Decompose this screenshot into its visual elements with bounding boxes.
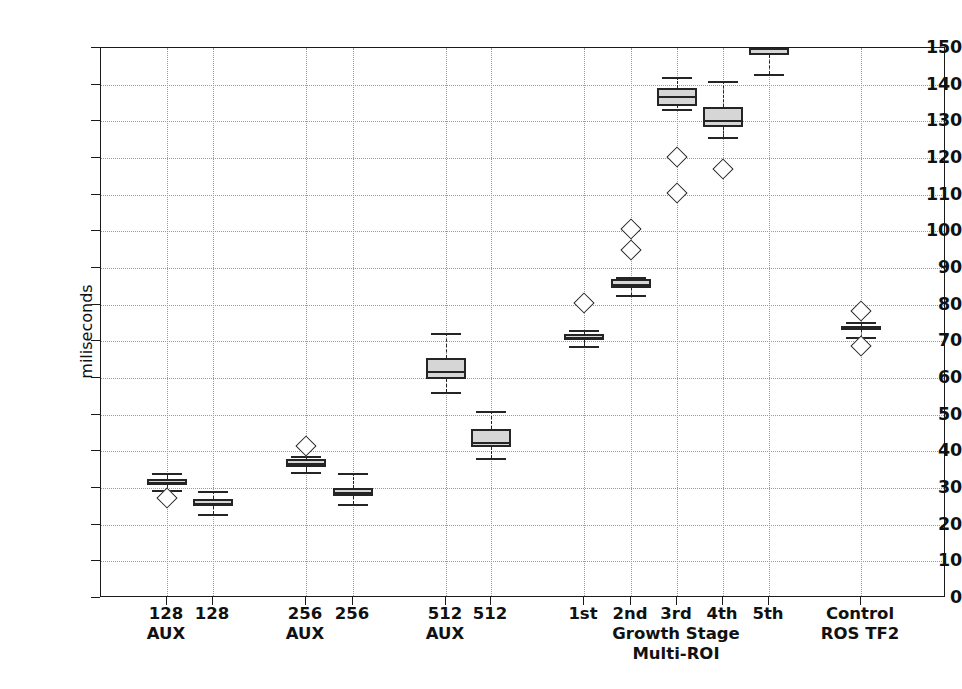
whisker-lower — [769, 55, 770, 73]
gridline-y-120 — [101, 158, 944, 159]
x-tick-label-line2: AUX — [101, 624, 231, 644]
gridline-y-10 — [101, 561, 944, 562]
y-tick-mark-100 — [91, 230, 100, 231]
median-line — [426, 371, 466, 373]
whisker-upper — [491, 411, 492, 429]
y-tick-mark-40 — [91, 450, 100, 451]
whisker-upper — [446, 333, 447, 359]
gridline-y-20 — [101, 525, 944, 526]
y-tick-label-10: 10 — [878, 550, 962, 570]
whisker-cap-lower — [708, 137, 738, 139]
median-line — [193, 503, 233, 505]
gridline-y-60 — [101, 378, 944, 379]
x-tick-label-line1: 128 — [195, 604, 229, 623]
y-tick-mark-30 — [91, 487, 100, 488]
whisker-cap-lower — [431, 392, 461, 394]
whisker-lower — [631, 288, 632, 295]
y-tick-mark-110 — [91, 194, 100, 195]
whisker-cap-lower — [569, 346, 599, 348]
gridline-y-30 — [101, 488, 944, 489]
whisker-cap-upper — [846, 322, 876, 324]
y-tick-label-70: 70 — [878, 330, 962, 350]
whisker-lower — [446, 379, 447, 393]
median-line — [611, 284, 651, 286]
gridline-y-100 — [101, 231, 944, 232]
y-tick-mark-90 — [91, 267, 100, 268]
whisker-lower — [723, 127, 724, 138]
outlier-marker — [573, 293, 594, 314]
whisker-cap-upper — [476, 411, 506, 413]
y-tick-mark-80 — [91, 304, 100, 305]
box-9 — [703, 107, 743, 126]
gridline-y-70 — [101, 341, 944, 342]
box-5 — [471, 429, 511, 447]
y-tick-mark-130 — [91, 120, 100, 121]
y-tick-mark-140 — [91, 84, 100, 85]
gridline-x-8 — [677, 48, 678, 596]
median-line — [657, 96, 697, 98]
y-tick-mark-120 — [91, 157, 100, 158]
gridline-y-90 — [101, 268, 944, 269]
x-tick-label-line1: 5th — [752, 604, 783, 623]
y-tick-label-90: 90 — [878, 257, 962, 277]
gridline-y-80 — [101, 305, 944, 306]
gridline-x-6 — [584, 48, 585, 596]
whisker-cap-upper — [198, 491, 228, 493]
chart-page: miliseconds 0102030405060708090100110120… — [0, 0, 962, 689]
y-tick-label-30: 30 — [878, 477, 962, 497]
annotation-0: Growth Stage — [526, 624, 826, 644]
y-tick-label-100: 100 — [878, 220, 962, 240]
y-tick-label-120: 120 — [878, 147, 962, 167]
gridline-y-110 — [101, 195, 944, 196]
median-line — [471, 442, 511, 444]
whisker-lower — [491, 447, 492, 458]
whisker-cap-upper — [569, 330, 599, 332]
outlier-marker — [850, 301, 871, 322]
outlier-marker — [712, 159, 733, 180]
y-tick-label-150: 150 — [878, 37, 962, 57]
median-line — [703, 120, 743, 122]
whisker-cap-lower — [616, 295, 646, 297]
whisker-cap-upper — [708, 81, 738, 83]
outlier-marker — [295, 435, 316, 456]
gridline-x-5 — [491, 48, 492, 596]
gridline-x-2 — [306, 48, 307, 596]
annotation-1: Multi-ROI — [526, 644, 826, 664]
y-tick-label-20: 20 — [878, 514, 962, 534]
whisker-cap-upper — [291, 456, 321, 458]
y-tick-mark-150 — [91, 47, 100, 48]
gridline-x-7 — [631, 48, 632, 596]
gridline-y-50 — [101, 415, 944, 416]
x-tick-label-line1: Control — [826, 604, 894, 623]
y-tick-label-140: 140 — [878, 74, 962, 94]
outlier-marker — [850, 336, 871, 357]
whisker-upper — [723, 81, 724, 107]
outlier-marker — [666, 146, 687, 167]
y-tick-mark-60 — [91, 377, 100, 378]
whisker-cap-lower — [198, 514, 228, 516]
whisker-cap-lower — [754, 74, 784, 76]
y-tick-mark-0 — [91, 597, 100, 598]
y-tick-mark-50 — [91, 414, 100, 415]
outlier-marker — [620, 218, 641, 239]
x-tick-label-line1: 512 — [473, 604, 507, 623]
gridline-x-0 — [167, 48, 168, 596]
y-tick-label-40: 40 — [878, 440, 962, 460]
y-tick-label-50: 50 — [878, 404, 962, 424]
y-tick-label-60: 60 — [878, 367, 962, 387]
gridline-x-3 — [353, 48, 354, 596]
y-tick-mark-70 — [91, 340, 100, 341]
whisker-cap-lower — [476, 458, 506, 460]
gridline-y-140 — [101, 85, 944, 86]
median-line — [564, 337, 604, 339]
whisker-lower — [213, 506, 214, 514]
median-line — [841, 328, 881, 330]
y-axis-title: miliseconds — [77, 232, 96, 432]
plot-area — [100, 47, 945, 597]
gridline-y-130 — [101, 121, 944, 122]
gridline-y-40 — [101, 451, 944, 452]
whisker-cap-lower — [338, 504, 368, 506]
box-4 — [426, 358, 466, 379]
y-tick-label-130: 130 — [878, 110, 962, 130]
y-tick-label-110: 110 — [878, 184, 962, 204]
